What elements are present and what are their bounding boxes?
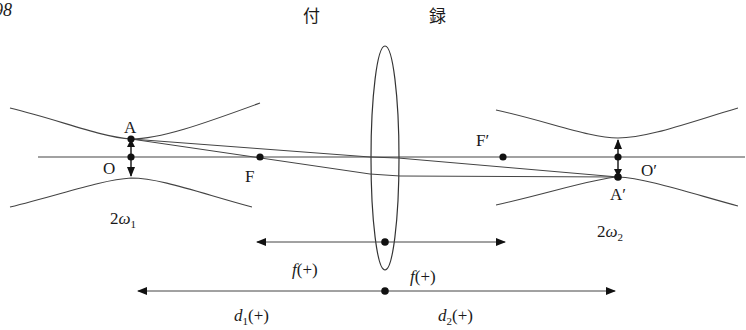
- lens-center-dot-d: [381, 287, 389, 295]
- label-f-left: f(+): [292, 261, 318, 278]
- label-waist-left: 2ω1: [110, 210, 136, 230]
- label-f-right: f(+): [410, 268, 436, 285]
- label-A: A: [124, 119, 136, 136]
- point-F: [256, 153, 263, 160]
- label-d2: d2(+): [438, 307, 473, 327]
- point-F-prime: [499, 153, 506, 160]
- label-waist-right: 2ω2: [597, 223, 623, 243]
- point-O: [127, 153, 134, 160]
- label-F-prime: F′: [476, 132, 489, 149]
- label-A-prime: A′: [610, 186, 626, 203]
- right-beam-upper-envelope: [496, 108, 738, 138]
- label-O: O: [103, 160, 115, 177]
- label-d1: d1(+): [234, 307, 269, 327]
- point-A-prime: [614, 173, 622, 181]
- ray-through-center: [131, 139, 618, 177]
- left-beam-lower-envelope: [10, 178, 252, 207]
- label-F: F: [245, 168, 254, 185]
- label-O-prime: O′: [641, 162, 657, 179]
- lens-center-dot-f: [381, 238, 389, 246]
- point-O-prime: [614, 153, 621, 160]
